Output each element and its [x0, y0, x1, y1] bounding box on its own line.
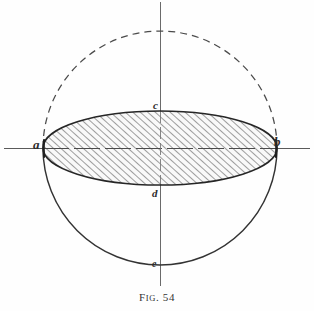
- point-label-a: a: [33, 138, 40, 151]
- point-label-b: b: [274, 135, 281, 148]
- figure-drawing: [0, 0, 314, 311]
- caption-prefix-letter: F: [139, 291, 146, 303]
- figure-caption: FIG. 54: [0, 291, 314, 303]
- caption-number: . 54: [156, 291, 175, 303]
- point-label-d: d: [152, 188, 158, 199]
- figure-page: a b c d e FIG. 54: [0, 0, 314, 311]
- point-label-e: e: [152, 259, 156, 269]
- caption-smallcaps: IG: [146, 293, 156, 303]
- point-label-c: c: [153, 100, 158, 111]
